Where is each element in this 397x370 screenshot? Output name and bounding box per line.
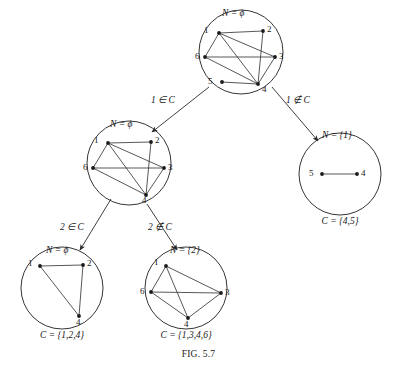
subproblem-1-in-c-edge-3-4 bbox=[146, 168, 164, 195]
subproblem-1-in-c-circle bbox=[87, 121, 171, 205]
subproblem-1-in-c-vertex-label-6: 6 bbox=[83, 163, 88, 172]
subproblem-2-not-in-c-c-label: C = {1,3,4,6} bbox=[161, 331, 212, 341]
subproblem-2-not-in-c-vertex-label-6: 6 bbox=[140, 287, 145, 296]
subproblem-1-in-c-edge-1-4 bbox=[108, 143, 146, 195]
root-subproblem-vertex-label-1: 1 bbox=[204, 26, 209, 35]
figure-5-7: 1 ∈ C1 ∉ C2 ∈ C2 ∉ C123456N = ϕ12346N = … bbox=[0, 0, 397, 370]
subproblem-2-in-c-edge-1-4 bbox=[40, 266, 79, 316]
subproblem-1-in-c-edge-2-4 bbox=[146, 142, 151, 195]
root-subproblem-vertex-3 bbox=[273, 55, 277, 59]
subproblem-2-not-in-c-edge-1-3 bbox=[166, 266, 221, 293]
subproblem-1-in-c-n-label: N = ϕ bbox=[110, 120, 132, 130]
subproblem-2-not-in-c-vertex-label-4: 4 bbox=[184, 320, 189, 329]
subproblem-2-in-c-c-label: C = {1,2,4} bbox=[40, 331, 84, 341]
subproblem-1-not-in-c-vertex-4 bbox=[355, 172, 359, 176]
subproblem-1-in-c-edge-1-2 bbox=[108, 142, 151, 143]
subproblem-1-in-c-edge-1-6 bbox=[93, 143, 108, 168]
branch-2-not-in-c-label: 2 ∉ C bbox=[148, 223, 172, 233]
branch-2-in-c-label: 2 ∈ C bbox=[60, 223, 84, 233]
root-subproblem-vertex-5 bbox=[220, 80, 224, 84]
subproblem-1-not-in-c-vertex-label-5: 5 bbox=[309, 169, 314, 178]
root-subproblem-vertex-label-4: 4 bbox=[262, 85, 267, 94]
root-subproblem-vertex-2 bbox=[261, 29, 265, 33]
root-subproblem-edge-1-3 bbox=[219, 33, 275, 57]
subproblem-2-in-c-vertex-2 bbox=[81, 263, 85, 267]
subproblem-2-in-c-vertex-label-2: 2 bbox=[87, 259, 92, 268]
subproblem-1-in-c-edge-1-3 bbox=[108, 143, 164, 168]
subproblem-1-in-c-vertex-1 bbox=[106, 141, 110, 145]
root-subproblem-vertex-label-3: 3 bbox=[279, 52, 284, 61]
subproblem-1-in-c-vertex-label-4: 4 bbox=[142, 196, 147, 205]
subproblem-1-in-c-edge-6-4 bbox=[93, 168, 146, 195]
subproblem-2-in-c-vertex-label-1: 1 bbox=[28, 259, 33, 268]
subproblem-2-not-in-c-vertex-1 bbox=[164, 264, 168, 268]
root-subproblem-edge-2-4 bbox=[258, 31, 263, 84]
root-subproblem-vertex-6 bbox=[203, 55, 207, 59]
subproblem-circles bbox=[21, 10, 381, 329]
subproblem-1-not-in-c-vertex-5 bbox=[320, 172, 324, 176]
root-subproblem-edge-1-2 bbox=[219, 31, 263, 33]
tree-branch-lines bbox=[80, 87, 318, 250]
subproblem-1-not-in-c-vertex-label-4: 4 bbox=[361, 169, 366, 178]
subproblem-2-not-in-c-vertex-label-1: 1 bbox=[154, 258, 159, 267]
subproblem-2-not-in-c-vertex-3 bbox=[219, 291, 223, 295]
branch-1-not-in-c-label: 1 ∉ C bbox=[286, 96, 310, 106]
subproblem-2-not-in-c-vertex-label-3: 3 bbox=[225, 288, 230, 297]
root-subproblem-vertex-label-5: 5 bbox=[208, 77, 213, 86]
subproblem-2-in-c-vertex-label-4: 4 bbox=[76, 318, 81, 327]
subproblem-1-in-c-vertex-label-2: 2 bbox=[155, 136, 160, 145]
figure-caption-text: FIG. 5.7 bbox=[182, 349, 216, 359]
subproblem-2-not-in-c-edge-6-3 bbox=[151, 292, 221, 293]
subproblem-2-not-in-c-n-label: N = {2} bbox=[170, 246, 200, 256]
subproblem-2-in-c-n-label: N = ϕ bbox=[46, 246, 68, 256]
root-subproblem-vertex-label-6: 6 bbox=[195, 52, 200, 61]
subproblem-2-not-in-c-vertex-6 bbox=[149, 290, 153, 294]
subproblem-1-in-c-vertex-6 bbox=[91, 166, 95, 170]
subproblem-2-not-in-c-edge-3-4 bbox=[188, 293, 221, 318]
subproblem-1-in-c-vertex-3 bbox=[162, 166, 166, 170]
branch-1-in-c-line bbox=[152, 87, 209, 132]
branch-1-in-c-label: 1 ∈ C bbox=[151, 96, 175, 106]
root-subproblem-vertex-4 bbox=[256, 82, 260, 86]
subproblem-2-in-c-edge-1-2 bbox=[40, 265, 83, 266]
subproblem-2-in-c-edge-2-4 bbox=[79, 265, 83, 316]
subproblem-1-in-c-vertex-label-3: 3 bbox=[168, 163, 173, 172]
root-subproblem-edge-1-6 bbox=[205, 33, 219, 57]
subproblem-2-not-in-c-edge-1-6 bbox=[151, 266, 166, 292]
root-subproblem-vertex-label-2: 2 bbox=[267, 25, 272, 34]
root-subproblem-edge-5-4 bbox=[222, 82, 258, 84]
subproblem-1-in-c-vertex-2 bbox=[149, 140, 153, 144]
root-subproblem-vertex-1 bbox=[217, 31, 221, 35]
branch-2-in-c-line bbox=[80, 199, 111, 250]
subproblem-2-in-c-vertex-1 bbox=[38, 264, 42, 268]
subproblem-1-in-c-vertex-label-1: 1 bbox=[94, 136, 99, 145]
subproblem-1-not-in-c-c-label: C = {4,5} bbox=[322, 217, 359, 227]
figure-caption: FIG. 5.7 bbox=[0, 349, 397, 359]
root-subproblem-edge-1-4 bbox=[219, 33, 258, 84]
root-subproblem-n-label: N = ϕ bbox=[222, 9, 244, 19]
subproblem-1-not-in-c-n-label: N = {1} bbox=[322, 131, 352, 141]
